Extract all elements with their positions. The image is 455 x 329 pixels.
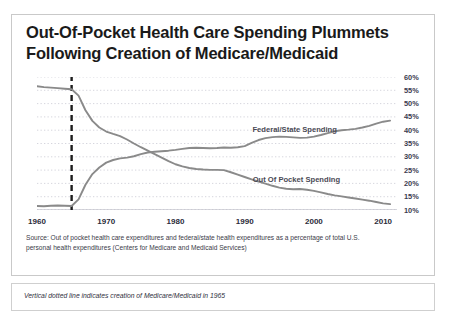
chart-title: Out-Of-Pocket Health Care Spending Plumm… [26,22,416,64]
y-axis-tick-label: 60% [404,73,438,82]
y-axis-tick-label: 20% [404,179,438,188]
series-lines [37,77,397,210]
plot-canvas [37,77,397,210]
series-line-0 [37,86,390,204]
y-axis-tick-label: 30% [404,152,438,161]
series-line-1 [37,121,390,207]
chart-figure: Out-Of-Pocket Health Care Spending Plumm… [11,14,435,276]
y-axis-tick-label: 50% [404,99,438,108]
x-axis-tick-label: 1990 [233,217,257,226]
x-axis-tick-label: 1980 [163,217,187,226]
source-line1: Source: Out of pocket health care expend… [26,233,424,243]
series-label-federal-state-spending: Federal/State Spending [252,125,336,134]
y-axis-tick-label: 35% [404,139,438,148]
footnote-text: Vertical dotted line indicates creation … [24,292,225,299]
x-axis-tick-label: 1960 [25,217,49,226]
x-axis-tick-label: 2010 [371,217,395,226]
y-axis-tick-label: 15% [404,192,438,201]
footnote-box: Vertical dotted line indicates creation … [11,283,435,311]
plot-area [12,77,436,212]
source-note: Source: Out of pocket health care expend… [26,233,424,252]
x-axis-tick-label: 2000 [302,217,326,226]
y-axis-tick-label: 40% [404,126,438,135]
series-label-out-of-pocket-spending: Out Of Pocket Spending [253,175,340,184]
x-axis-tick-label: 1970 [94,217,118,226]
source-line2: personal health expenditures (Centers fo… [26,243,424,253]
y-axis-tick-label: 25% [404,166,438,175]
y-axis-tick-label: 45% [404,112,438,121]
y-axis-tick-label: 55% [404,86,438,95]
chart-title-line2: Following Creation of Medicare/Medicaid [26,43,416,64]
y-axis-tick-label: 10% [404,206,438,215]
chart-title-line1: Out-Of-Pocket Health Care Spending Plumm… [26,22,416,43]
